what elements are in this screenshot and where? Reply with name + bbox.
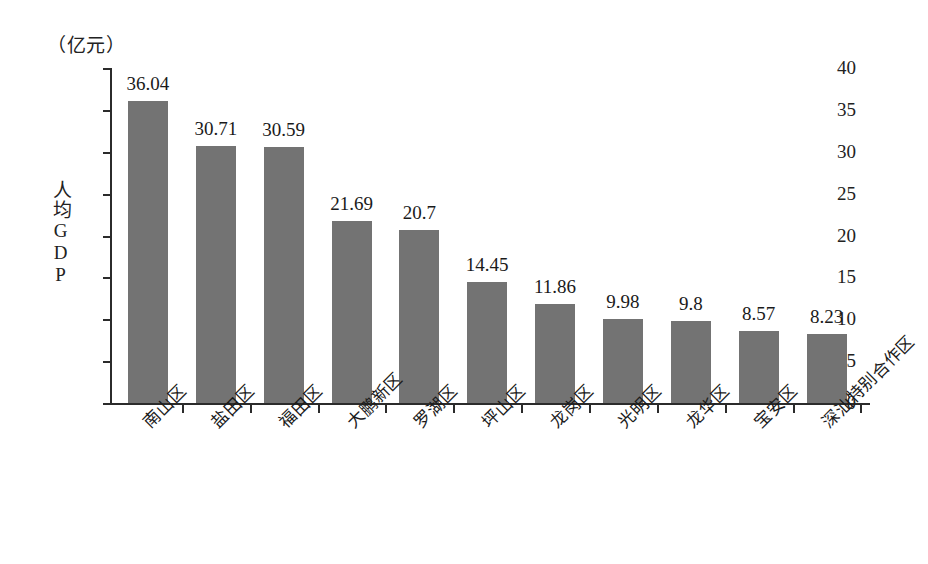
bar-value-label: 8.23 — [810, 306, 843, 328]
bar[interactable] — [332, 221, 372, 403]
bar-value-label: 9.8 — [679, 293, 703, 315]
x-axis-tick — [318, 404, 320, 413]
y-axis-tick-label: 30 — [837, 141, 856, 163]
y-axis-tick — [103, 194, 111, 196]
bar[interactable] — [399, 230, 439, 403]
x-axis-tick — [182, 404, 184, 413]
bar-value-label: 9.98 — [606, 291, 639, 313]
x-axis-tick — [385, 404, 387, 413]
y-axis-tick-label: 35 — [837, 99, 856, 121]
y-axis-tick-label: 15 — [837, 266, 856, 288]
y-axis-title: 人均GDP — [44, 180, 70, 286]
x-axis-tick — [453, 404, 455, 413]
bar-value-label: 30.59 — [262, 119, 305, 141]
y-axis-tick — [103, 361, 111, 363]
x-axis-tick — [657, 404, 659, 413]
y-axis-tick-label: 5 — [847, 350, 857, 372]
y-axis-tick — [103, 152, 111, 154]
x-axis-tick — [793, 404, 795, 413]
bar-value-label: 20.7 — [403, 202, 436, 224]
bar[interactable] — [128, 101, 168, 403]
unit-caption: （亿元） — [47, 30, 125, 57]
bar-chart: （亿元） 人均GDP 0510152025303540 36.0430.7130… — [0, 0, 928, 564]
bar-value-label: 30.71 — [194, 118, 237, 140]
bar-value-label: 21.69 — [330, 193, 373, 215]
y-axis-tick — [103, 277, 111, 279]
y-axis-tick — [103, 236, 111, 238]
bar[interactable] — [467, 282, 507, 403]
bar[interactable] — [264, 147, 304, 403]
y-axis-tick-label: 40 — [837, 57, 856, 79]
y-axis-tick — [103, 403, 111, 405]
y-axis-tick-label: 20 — [837, 225, 856, 247]
y-axis-tick — [103, 110, 111, 112]
x-axis-tick — [860, 404, 862, 413]
y-axis-tick-label: 25 — [837, 183, 856, 205]
x-axis-tick — [725, 404, 727, 413]
y-axis-tick — [103, 68, 111, 70]
bar[interactable] — [196, 146, 236, 403]
x-axis-tick — [250, 404, 252, 413]
bar-value-label: 11.86 — [534, 276, 576, 298]
y-axis-tick — [103, 319, 111, 321]
plot-area: 0510152025303540 36.0430.7130.5921.6920.… — [110, 68, 870, 405]
bar-value-label: 8.57 — [742, 303, 775, 325]
x-axis-tick — [589, 404, 591, 413]
bar-value-label: 14.45 — [466, 254, 509, 276]
bar-value-label: 36.04 — [127, 73, 170, 95]
x-axis-tick — [521, 404, 523, 413]
